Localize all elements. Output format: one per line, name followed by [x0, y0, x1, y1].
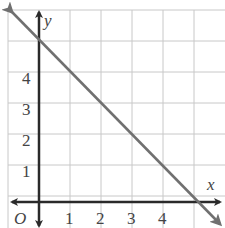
y-tick-4: 4	[22, 69, 31, 88]
y-axis-label: y	[42, 11, 52, 30]
coordinate-plane: y x O 1 2 3 4 1 2 3 4	[0, 0, 225, 228]
graph-line	[12, 12, 220, 224]
x-tick-4: 4	[158, 209, 167, 228]
y-tick-1: 1	[22, 162, 31, 181]
x-axis-label: x	[206, 175, 215, 194]
x-tick-2: 2	[96, 209, 105, 228]
x-tick-1: 1	[65, 209, 74, 228]
origin-label: O	[14, 209, 26, 228]
y-tick-2: 2	[22, 131, 31, 150]
x-tick-3: 3	[127, 209, 136, 228]
y-tick-3: 3	[22, 100, 31, 119]
